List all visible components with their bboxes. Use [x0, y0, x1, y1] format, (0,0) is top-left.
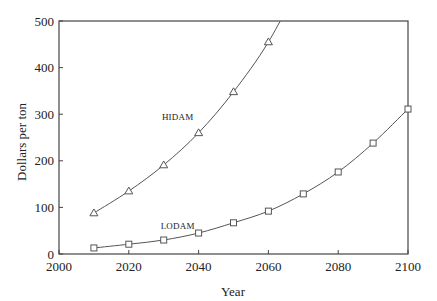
plot-frame	[59, 21, 408, 254]
plot-border	[59, 21, 408, 254]
square-marker	[370, 140, 376, 146]
x-tick-label: 2060	[255, 259, 281, 274]
series-lodam: LODAM	[91, 106, 411, 251]
series-line	[94, 109, 408, 248]
x-tick-label: 2020	[116, 259, 142, 274]
y-tick-label: 200	[35, 153, 55, 168]
square-marker	[91, 245, 97, 251]
triangle-marker	[90, 209, 98, 216]
series-label: HIDAM	[162, 112, 194, 122]
y-tick-label: 500	[35, 14, 55, 29]
series-hidam: HIDAM	[90, 0, 303, 216]
triangle-marker	[264, 38, 272, 45]
square-marker	[231, 220, 237, 226]
square-marker	[265, 208, 271, 214]
square-marker	[405, 106, 411, 112]
y-axis-label: Dollars per ton	[14, 103, 29, 181]
square-marker	[126, 241, 132, 247]
x-tick-label: 2080	[325, 259, 351, 274]
x-tick-label: 2040	[186, 259, 212, 274]
square-marker	[300, 191, 306, 197]
square-marker	[335, 169, 341, 175]
square-marker	[196, 230, 202, 236]
series-label: LODAM	[161, 221, 195, 231]
y-tick-label: 300	[35, 107, 55, 122]
y-tick-label: 100	[35, 200, 55, 215]
x-axis-label: Year	[221, 284, 246, 299]
triangle-marker	[125, 187, 133, 194]
line-chart: 200020202040206020802100 010020030040050…	[0, 0, 437, 301]
y-tick-label: 400	[35, 60, 55, 75]
series-layer: HIDAMLODAM	[90, 0, 411, 251]
y-tick-label: 0	[48, 247, 55, 262]
x-tick-label: 2100	[395, 259, 421, 274]
series-line	[94, 0, 303, 213]
square-marker	[161, 237, 167, 243]
